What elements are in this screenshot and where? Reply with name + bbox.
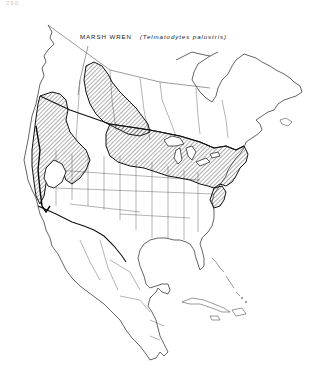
coastline [24, 25, 302, 360]
range-map [0, 0, 324, 388]
map-frame-lines [48, 25, 210, 95]
breeding-range [32, 62, 248, 208]
breeding-range-west [32, 92, 90, 204]
breeding-range-atlantic [210, 186, 226, 208]
